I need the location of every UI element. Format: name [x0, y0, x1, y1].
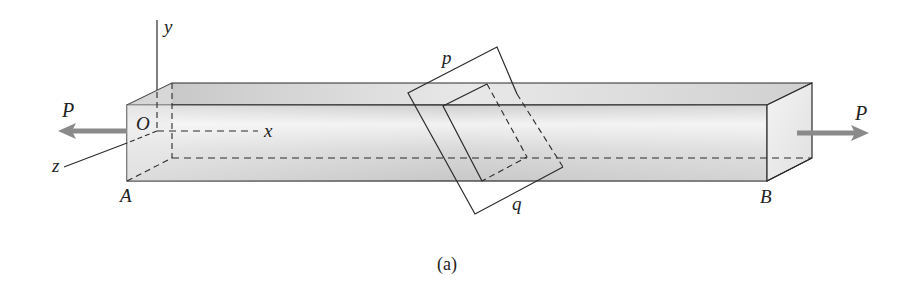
z-axis: [64, 143, 127, 167]
plane-label-q: q: [512, 193, 522, 214]
prismatic-bar-diagram: P P O x y z A B p q (a): [0, 0, 920, 287]
axis-y-label: y: [162, 16, 173, 37]
figure-caption: (a): [437, 254, 457, 275]
load-label-left: P: [61, 99, 74, 121]
load-arrow-left: [58, 123, 127, 139]
load-label-right: P: [854, 102, 867, 124]
bar-top-face: [127, 83, 812, 105]
plane-label-p: p: [440, 47, 452, 68]
axis-z-label: z: [51, 155, 60, 176]
axis-x-label: x: [263, 120, 273, 141]
end-label-a: A: [118, 185, 132, 206]
origin-label: O: [136, 113, 150, 134]
end-label-b: B: [760, 186, 772, 207]
